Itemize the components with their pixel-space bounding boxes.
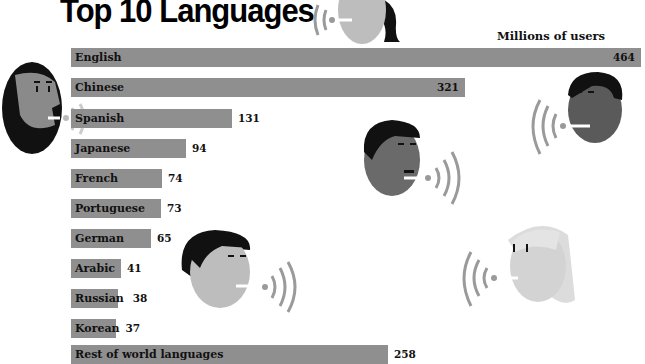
bar-value: 131 — [238, 109, 260, 128]
bar-label: Arabic — [75, 259, 115, 278]
bar-english — [71, 48, 641, 67]
bar-value: 464 — [613, 48, 635, 67]
bar-value: 37 — [125, 319, 140, 338]
bar-value: 41 — [127, 259, 142, 278]
bar-label: Spanish — [75, 109, 124, 128]
bar-label: Chinese — [75, 78, 124, 97]
bar-value: 321 — [437, 78, 459, 97]
bar-value: 94 — [192, 139, 207, 158]
bar-value: 38 — [133, 289, 148, 308]
bar-value: 65 — [157, 229, 172, 248]
speaking-woman-blonde-icon — [464, 226, 575, 306]
bar-chinese — [71, 78, 465, 97]
bar-value: 74 — [168, 169, 183, 188]
bar-value: 73 — [167, 199, 182, 218]
bar-label: Portuguese — [75, 199, 145, 218]
speaking-woman-top-icon — [315, 0, 400, 44]
bar-value: 258 — [394, 345, 416, 364]
bar-label: German — [75, 229, 124, 248]
bar-label: Korean — [75, 319, 120, 338]
bar-label: French — [75, 169, 118, 188]
bar-label: Japanese — [75, 139, 130, 158]
bar-label: Russian — [75, 289, 124, 308]
speaking-woman-bob-icon — [182, 230, 295, 312]
speaking-man-center-icon — [364, 120, 459, 204]
bar-label: Rest of world languages — [75, 345, 223, 364]
speaking-man-right-icon — [533, 72, 622, 154]
bar-label: English — [75, 48, 122, 67]
